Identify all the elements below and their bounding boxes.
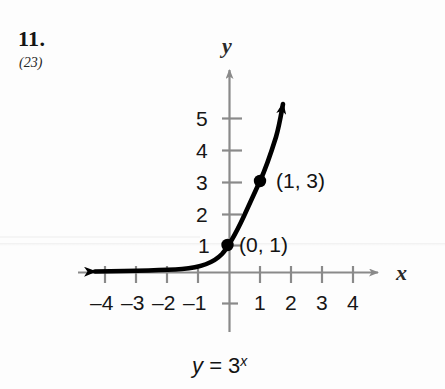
x-axis — [78, 266, 378, 283]
y-tick-label-1: 1 — [198, 235, 210, 256]
graph-figure — [0, 0, 445, 389]
equation-lhs: y — [192, 353, 203, 378]
y-tick-label-4: 4 — [196, 140, 208, 161]
x-tick-label-neg3: –3 — [121, 292, 144, 313]
x-tick-label-2: 2 — [285, 292, 297, 313]
y-tick-label-2: 2 — [196, 204, 208, 225]
equation-operator: = — [209, 353, 222, 378]
figure-page: 11. (23) — [0, 0, 445, 389]
x-tick-label-3: 3 — [316, 292, 328, 313]
y-axis-label: y — [222, 35, 232, 57]
x-tick-label-neg1: –1 — [183, 292, 206, 313]
data-point-0-1 — [221, 239, 233, 251]
equation-caption: y = 3x — [192, 352, 247, 379]
y-tick-label-3: 3 — [196, 172, 208, 193]
x-tick-label-neg2: –2 — [152, 292, 175, 313]
x-tick-label-4: 4 — [347, 292, 359, 313]
point-label-1-3: (1, 3) — [276, 170, 325, 191]
graph-svg — [0, 0, 445, 389]
x-axis-label: x — [396, 262, 407, 284]
y-tick-label-5: 5 — [196, 108, 208, 129]
x-tick-label-1: 1 — [254, 292, 266, 313]
x-tick-label-neg4: –4 — [90, 292, 113, 313]
y-axis-ticks — [222, 119, 242, 304]
equation-base: 3 — [228, 353, 240, 378]
equation-exponent: x — [240, 353, 247, 369]
point-label-0-1: (0, 1) — [239, 234, 288, 255]
y-axis — [222, 70, 242, 332]
data-point-1-3 — [254, 175, 266, 187]
